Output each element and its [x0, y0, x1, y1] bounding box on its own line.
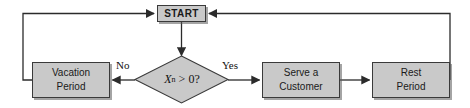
node-rest-period[interactable]: Rest Period: [372, 62, 450, 98]
node-vacation-period[interactable]: Vacation Period: [32, 62, 110, 98]
flowchart-diagram: START Vacation Period Serve a Customer R…: [0, 0, 470, 108]
decision-diamond: [135, 56, 228, 103]
node-start-label: START: [164, 8, 199, 19]
node-serve-a-customer[interactable]: Serve a Customer: [262, 62, 340, 98]
node-rest-period-line2: Period: [397, 80, 426, 94]
node-serve-a-customer-line2: Customer: [279, 80, 322, 94]
edge-label-yes: Yes: [222, 59, 238, 71]
node-start[interactable]: START: [157, 5, 206, 22]
edge-label-no: No: [116, 59, 129, 71]
node-vacation-period-line2: Period: [57, 80, 86, 94]
node-rest-period-line1: Rest: [401, 66, 422, 80]
node-serve-a-customer-line1: Serve a: [284, 66, 318, 80]
node-vacation-period-line1: Vacation: [52, 66, 90, 80]
